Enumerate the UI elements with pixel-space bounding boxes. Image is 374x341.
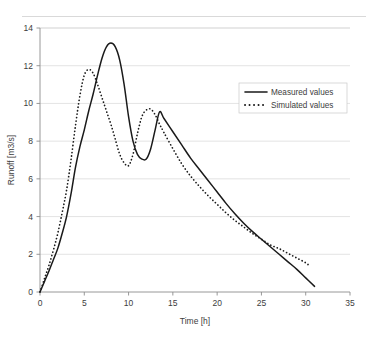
x-tick-label: 5: [82, 298, 87, 308]
y-tick-label: 12: [24, 61, 34, 71]
x-tick-label: 20: [212, 298, 222, 308]
x-tick-label: 25: [257, 298, 267, 308]
y-tick-label: 6: [28, 174, 33, 184]
x-tick-label: 0: [38, 298, 43, 308]
legend-label-simulated: Simulated values: [271, 101, 333, 110]
chart-canvas: 02468101214 05101520253035 Runoff [m3/s]…: [0, 0, 374, 341]
x-tick-label: 15: [168, 298, 178, 308]
axis-lines-group: [40, 28, 350, 292]
x-tick-group: 05101520253035: [38, 292, 355, 308]
gridlines-group: [40, 28, 350, 254]
legend: Measured valuesSimulated values: [239, 83, 347, 113]
x-axis-title: Time [h]: [180, 316, 210, 326]
y-tick-label: 4: [28, 212, 33, 222]
x-tick-label: 10: [124, 298, 134, 308]
legend-label-measured: Measured values: [271, 88, 333, 97]
y-tick-label: 0: [28, 287, 33, 297]
y-tick-label: 14: [24, 23, 34, 33]
y-tick-label: 2: [28, 249, 33, 259]
y-tick-label: 8: [28, 136, 33, 146]
x-tick-label: 30: [301, 298, 311, 308]
y-axis-title: Runoff [m3/s]: [6, 135, 16, 185]
x-tick-label: 35: [345, 298, 355, 308]
y-tick-group: 02468101214: [24, 23, 40, 297]
runoff-chart-figure: 02468101214 05101520253035 Runoff [m3/s]…: [0, 0, 374, 341]
y-tick-label: 10: [24, 98, 34, 108]
